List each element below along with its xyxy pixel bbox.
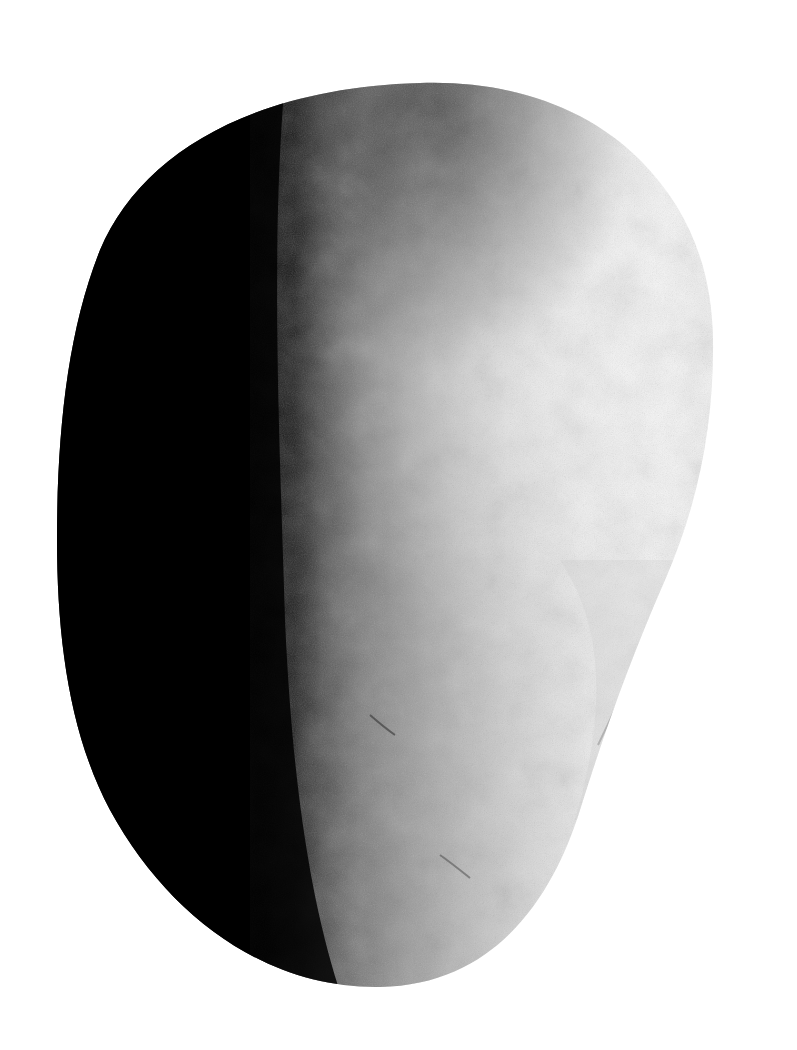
stone-graphic bbox=[0, 0, 797, 1050]
stone-photograph bbox=[0, 0, 797, 1050]
